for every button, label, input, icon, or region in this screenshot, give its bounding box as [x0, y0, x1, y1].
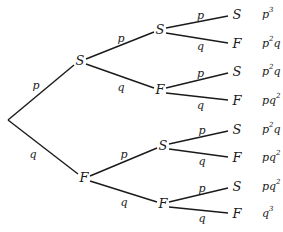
tree-edges — [8, 16, 228, 213]
edge-label-p: p — [197, 67, 204, 80]
node-level2-s: S — [156, 22, 165, 37]
edge-label-q: q — [198, 155, 205, 168]
edge-label-p: p — [32, 79, 39, 92]
outcome-probability: p3 — [262, 6, 274, 21]
edge-label-q: q — [197, 40, 204, 53]
edge-label-p: p — [197, 9, 204, 22]
outcome-probability: pq2 — [262, 92, 281, 107]
outcome-probability: p2q — [262, 121, 281, 136]
edge-label-p: p — [198, 124, 205, 137]
edge-label-q: q — [29, 148, 36, 161]
outcome-probability: pq2 — [262, 149, 281, 164]
edge-label-q: q — [117, 81, 124, 94]
edge-label-q: q — [198, 212, 205, 225]
outcome-probability: q3 — [262, 205, 274, 220]
edge-label-q: q — [197, 99, 204, 112]
outcome-probability: p2q — [262, 63, 281, 78]
node-level1-f: F — [78, 170, 89, 185]
node-level2-s: S — [159, 138, 168, 153]
edge-label-p: p — [120, 148, 127, 161]
leaf-node-f: F — [231, 206, 242, 221]
edge-label-p: p — [117, 32, 124, 45]
probability-tree-diagram: SpFqSpFqSpFqSpp3Fqp2qSpp2qFqpq2Spp2qFqpq… — [0, 0, 283, 232]
leaf-node-s: S — [233, 7, 242, 22]
tree-labels: SpFqSpFqSpFqSpp3Fqp2qSpp2qFqpq2Spp2qFqpq… — [29, 6, 281, 225]
outcome-probability: p2q — [262, 35, 281, 50]
leaf-node-f: F — [231, 36, 242, 51]
edge-root-to-s — [8, 65, 74, 120]
node-level1-s: S — [76, 53, 85, 68]
edge-label-p: p — [198, 182, 205, 195]
node-level2-f: F — [157, 196, 168, 211]
outcome-probability: pq2 — [262, 178, 281, 193]
leaf-node-s: S — [233, 122, 242, 137]
edge-label-q: q — [120, 196, 127, 209]
leaf-node-s: S — [233, 179, 242, 194]
edge-root-to-f — [8, 120, 78, 174]
leaf-node-f: F — [231, 93, 242, 108]
leaf-node-s: S — [233, 64, 242, 79]
node-level2-f: F — [154, 82, 165, 97]
leaf-node-f: F — [231, 150, 242, 165]
